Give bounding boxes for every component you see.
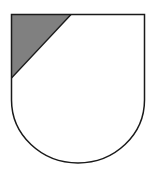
shield-figure (0, 0, 150, 180)
shield-svg (0, 0, 150, 180)
